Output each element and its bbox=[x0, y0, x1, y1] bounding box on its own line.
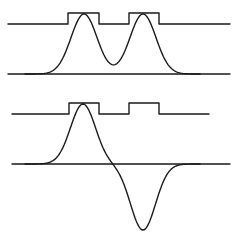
signal-diagram bbox=[0, 0, 238, 234]
top-pulse-train bbox=[8, 13, 230, 24]
top-panel bbox=[8, 13, 230, 74]
top-double-peak-curve bbox=[25, 14, 200, 74]
bottom-panel bbox=[12, 103, 230, 230]
bottom-bipolar-curve bbox=[25, 104, 200, 230]
bottom-pulse-train bbox=[12, 103, 209, 114]
